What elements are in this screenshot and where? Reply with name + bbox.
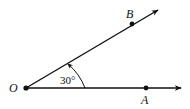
ray-ob	[26, 10, 158, 88]
label-b: B	[126, 7, 134, 21]
point-a	[144, 86, 149, 91]
angle-diagram: O A B 30°	[0, 0, 190, 109]
point-o	[23, 85, 28, 90]
point-b	[130, 22, 135, 27]
label-a: A	[140, 93, 149, 107]
label-o: O	[9, 81, 18, 95]
angle-label: 30°	[60, 74, 75, 86]
